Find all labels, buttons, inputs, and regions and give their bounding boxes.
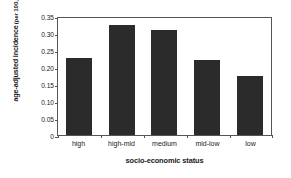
y-axis-tick-labels: 0.350.300.250.200.150.100.050 <box>28 0 54 178</box>
y-tick-label: 0.05 <box>30 116 54 123</box>
bar-series <box>58 18 271 135</box>
x-tick-mark <box>144 135 145 138</box>
x-tick-label: low <box>229 139 272 148</box>
y-axis-title-line1: age-adjusted incidence <box>12 25 20 101</box>
bar-chart-figure: age-adjusted incidence (per 100,000) 0.3… <box>0 0 291 178</box>
x-tick-label: mid-low <box>186 139 229 148</box>
y-tick-label: 0.35 <box>30 14 54 21</box>
bar <box>151 30 177 135</box>
x-axis-title: socio-economic status <box>57 156 272 165</box>
y-tick-label: 0 <box>30 133 54 140</box>
x-tick-mark <box>187 135 188 138</box>
y-tick-label: 0.30 <box>30 31 54 38</box>
y-tick-mark <box>55 35 58 36</box>
y-tick-label: 0.20 <box>30 65 54 72</box>
bar <box>109 25 135 135</box>
x-tick-mark <box>101 135 102 138</box>
y-tick-label: 0.10 <box>30 99 54 106</box>
plot-area <box>57 17 272 136</box>
y-tick-label: 0.15 <box>30 82 54 89</box>
x-tick-mark <box>272 135 273 138</box>
y-tick-mark <box>55 69 58 70</box>
x-tick-label: high <box>57 139 100 148</box>
y-tick-mark <box>55 86 58 87</box>
bar <box>237 76 263 136</box>
y-axis-title: age-adjusted incidence (per 100,000) <box>5 0 27 99</box>
bar <box>194 60 220 135</box>
y-tick-mark <box>55 18 58 19</box>
x-tick-mark <box>230 135 231 138</box>
x-tick-mark <box>58 135 59 138</box>
x-axis-tick-labels: highhigh-midmediummid-lowlow <box>57 139 272 151</box>
y-tick-mark <box>55 120 58 121</box>
bar <box>66 58 92 135</box>
x-tick-label: high-mid <box>100 139 143 148</box>
x-tick-label: medium <box>143 139 186 148</box>
y-axis-title-line2: (per 100,000) <box>12 0 20 24</box>
y-tick-mark <box>55 52 58 53</box>
y-tick-mark <box>55 103 58 104</box>
y-tick-label: 0.25 <box>30 48 54 55</box>
